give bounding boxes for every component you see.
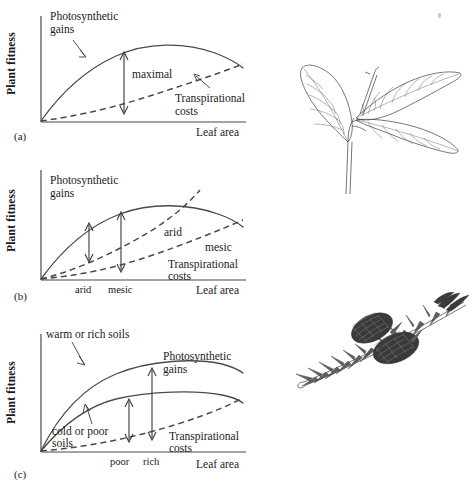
panel-b-x-axis-title: Leaf area <box>196 284 239 296</box>
chart-panel-b: Plant fitness Leaf area Photosynthetic g… <box>0 152 262 310</box>
panel-c-label-gains-line1: Photosynthetic <box>163 350 231 363</box>
chart-panel-a: Plant fitness Leaf area Photosynthetic g… <box>0 0 262 150</box>
arid-gap-arrow <box>85 223 93 262</box>
cold-soils-leader-line <box>83 404 92 424</box>
panel-c-label-gains-line2: gains <box>163 363 188 376</box>
page-speck <box>438 13 441 18</box>
panel-a-label-maximal: maximal <box>132 68 172 80</box>
panel-a-x-axis-title: Leaf area <box>196 126 239 138</box>
panel-b-label-gains-line2: gains <box>50 187 75 200</box>
chart-panel-c: Plant fitness Leaf area warm or rich soi… <box>0 312 262 487</box>
panel-a-label-costs-line1: Transpirational <box>175 92 245 105</box>
panel-c-xtick-rich: rich <box>143 456 160 467</box>
panel-b-letter: (b) <box>14 290 27 303</box>
panel-c-label-costs-line2: costs <box>169 442 193 454</box>
curve-photosynthetic-gains <box>41 45 243 121</box>
panel-b-label-costs-line2: costs <box>168 270 192 282</box>
panel-c-letter: (c) <box>14 468 27 481</box>
panel-a-letter: (a) <box>14 130 27 143</box>
panel-b-y-axis-title: Plant fitness <box>5 189 17 252</box>
panel-a-label-costs-line2: costs <box>175 105 199 117</box>
panel-b-xtick-arid: arid <box>75 284 92 295</box>
panel-a-label-gains-line2: gains <box>50 23 75 36</box>
panel-c-x-axis-title: Leaf area <box>196 458 239 470</box>
panel-c-label-warm-soils: warm or rich soils <box>46 328 130 340</box>
panel-a-plot: Plant fitness Leaf area Photosynthetic g… <box>0 0 262 150</box>
panel-c-xtick-poor: poor <box>110 456 130 467</box>
warm-soils-leader-line <box>72 342 85 365</box>
conifer-branch-with-cones-illustration <box>288 292 472 404</box>
panel-b-label-arid-curve: arid <box>164 226 182 238</box>
panel-b-label-mesic-curve: mesic <box>205 241 232 253</box>
poor-gap-arrow <box>125 399 133 442</box>
rich-gap-arrow <box>148 368 156 440</box>
gains-leader-line <box>73 40 86 57</box>
panel-b-label-gains-line1: Photosynthetic <box>50 174 118 187</box>
panel-c-y-axis-title: Plant fitness <box>5 361 17 424</box>
panel-b-xtick-mesic: mesic <box>108 284 133 295</box>
panel-b-plot: Plant fitness Leaf area Photosynthetic g… <box>0 152 262 310</box>
mesic-gap-arrow <box>117 212 125 272</box>
panel-a-y-axis-title: Plant fitness <box>5 32 17 95</box>
broad-leaf-branch-illustration <box>262 22 472 202</box>
panel-c-label-cold-soils-line2: soils <box>52 437 74 449</box>
panel-a-label-gains-line1: Photosynthetic <box>50 10 118 23</box>
panel-c-plot: Plant fitness Leaf area warm or rich soi… <box>0 312 262 487</box>
